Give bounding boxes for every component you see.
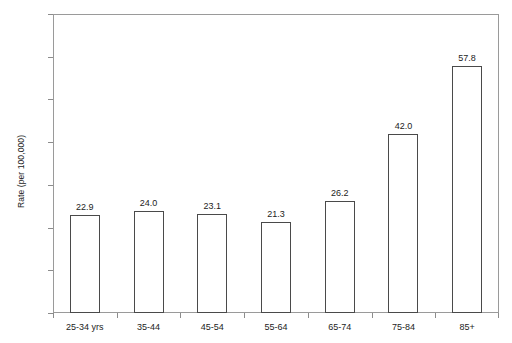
bar-group: 42.0	[372, 14, 436, 313]
bar-group: 24.0	[117, 14, 181, 313]
x-axis-label: 45-54	[180, 321, 244, 334]
bar[interactable]	[325, 201, 355, 313]
bar-value-label: 22.9	[76, 202, 94, 213]
x-axis-tick-mark	[435, 313, 436, 318]
bar[interactable]	[70, 215, 100, 313]
bar[interactable]	[452, 66, 482, 313]
y-axis-title: Rate (per 100,000)	[14, 0, 28, 343]
bar-group: 21.3	[244, 14, 308, 313]
bar-group: 23.1	[180, 14, 244, 313]
x-axis: 25-34 yrs35-4445-5455-6465-7475-8485+	[53, 321, 499, 337]
bar[interactable]	[134, 211, 164, 314]
bar-value-label: 23.1	[204, 201, 222, 212]
bar-value-label: 42.0	[395, 121, 413, 132]
x-axis-tick-mark	[117, 313, 118, 318]
x-axis-label: 35-44	[117, 321, 181, 334]
x-axis-label: 55-64	[244, 321, 308, 334]
bar-group: 57.8	[435, 14, 499, 313]
x-axis-tick-mark	[53, 313, 54, 318]
bar[interactable]	[197, 214, 227, 313]
x-axis-tick-mark	[244, 313, 245, 318]
bar[interactable]	[388, 134, 418, 313]
x-axis-ticks	[53, 313, 499, 319]
x-axis-label: 75-84	[372, 321, 436, 334]
x-axis-label: 85+	[435, 321, 499, 334]
x-axis-tick-mark	[372, 313, 373, 318]
x-axis-tick-mark	[498, 313, 499, 318]
bar-value-label: 57.8	[458, 53, 476, 64]
bar-value-label: 26.2	[331, 188, 349, 199]
bar-chart: Rate (per 100,000) 0.010.020.030.040.050…	[0, 0, 512, 343]
bar-value-label: 24.0	[140, 198, 158, 209]
bar-group: 22.9	[53, 14, 117, 313]
bar-value-label: 21.3	[267, 209, 285, 220]
x-axis-tick-mark	[180, 313, 181, 318]
x-axis-label: 65-74	[308, 321, 372, 334]
x-axis-tick-mark	[308, 313, 309, 318]
x-axis-label: 25-34 yrs	[53, 321, 117, 334]
bar-group: 26.2	[308, 14, 372, 313]
bar[interactable]	[261, 222, 291, 313]
bar-series: 22.924.023.121.326.242.057.8	[53, 14, 499, 313]
